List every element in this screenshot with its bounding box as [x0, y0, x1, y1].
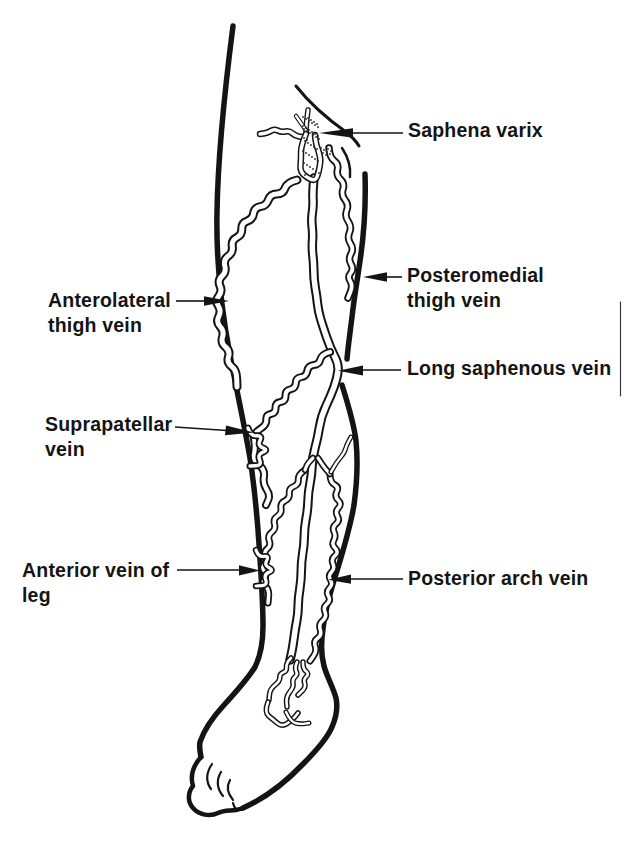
stipple-dot [310, 144, 312, 146]
label-anterolateral-thigh-vein: Anterolateral thigh vein [48, 288, 171, 338]
stipple-dot [311, 156, 313, 158]
label-text: Saphena varix [408, 118, 543, 143]
label-text: leg [22, 583, 169, 608]
stipple-dot [315, 136, 317, 138]
stipple-dot [306, 130, 308, 132]
vein-network [217, 110, 353, 725]
stipple-dot [310, 119, 312, 121]
stipple-dot [311, 131, 313, 133]
label-text: Anterolateral [48, 288, 171, 313]
stipple-dot [304, 174, 306, 176]
stipple-dot [315, 170, 317, 172]
stipple-dot [306, 139, 308, 141]
label-saphena-varix: Saphena varix [408, 118, 543, 143]
stipple-dot [322, 152, 324, 154]
label-text: thigh vein [407, 288, 544, 313]
stipple-dot [303, 162, 305, 164]
stipple-dot [312, 134, 314, 136]
stipple-dot [326, 151, 328, 153]
stipple-dot [327, 148, 329, 150]
stipple-dot [307, 142, 309, 144]
stipple-dot [306, 164, 308, 166]
label-suprapatellar-vein: Suprapatellar vein [45, 412, 172, 462]
stipple-dot [308, 154, 310, 156]
stipple-dot [303, 128, 305, 130]
toe-crease-3 [228, 780, 233, 800]
stipple-dot [312, 168, 314, 170]
stipple-dot [314, 124, 316, 126]
groin-crease-tail [342, 148, 350, 177]
leader-line [175, 427, 227, 431]
stipple-dot [308, 120, 310, 122]
stipple-dot [318, 138, 320, 140]
arrowhead-icon [319, 128, 353, 138]
leader-posteromedial-thigh-vein [363, 272, 402, 281]
stipple-dot [318, 172, 320, 174]
label-text: Suprapatellar [45, 412, 172, 437]
label-long-saphenous-vein: Long saphenous vein [407, 356, 611, 381]
stipple-dot [316, 123, 318, 125]
stipple-dot [305, 118, 307, 120]
anatomical-figure: Saphena varix Anterolateral thigh vein P… [0, 0, 624, 841]
label-text: Posteromedial [407, 263, 544, 288]
stipple-dot [317, 126, 319, 128]
label-posteromedial-thigh-vein: Posteromedial thigh vein [407, 263, 544, 313]
stipple-dot [305, 127, 307, 129]
stipple-dot [329, 153, 331, 155]
stipple-dot [313, 146, 315, 148]
stipple-dot [320, 147, 322, 149]
stipple-dot [308, 129, 310, 131]
label-posterior-arch-vein: Posterior arch vein [408, 566, 588, 591]
stipple-dot [309, 166, 311, 168]
label-text: thigh vein [48, 313, 171, 338]
stipple-dot [307, 117, 309, 119]
arrowhead-icon [363, 272, 387, 281]
stipple-dot [302, 125, 304, 127]
stipple-dot [314, 133, 316, 135]
label-text: Posterior arch vein [408, 566, 588, 591]
label-text: Long saphenous vein [407, 356, 611, 381]
stipple-dot [302, 116, 304, 118]
stipple-dot [323, 149, 325, 151]
stipple-dot [305, 152, 307, 154]
stipple-dot [330, 150, 332, 152]
anterolateral-thigh-vein-vessel [217, 180, 297, 387]
toe-crease-2 [218, 772, 223, 796]
outline-left-and-dorsum [200, 26, 263, 757]
stipple-dot [316, 148, 318, 150]
stipple-dot [303, 137, 305, 139]
leg-outline [189, 26, 621, 815]
stipple-dot [317, 135, 319, 137]
stipple-dot [304, 140, 306, 142]
label-anterior-vein-of-leg: Anterior vein of leg [22, 558, 169, 608]
leader-saphena-varix [319, 128, 403, 138]
stipple-dot [314, 158, 316, 160]
stipple-dot [325, 154, 327, 156]
stipple-dot [309, 132, 311, 134]
toe-crease-1 [207, 764, 212, 789]
stipple-dot [317, 160, 319, 162]
arrowhead-icon [239, 565, 260, 575]
stipple-dot [302, 150, 304, 152]
leader-anterior-vein-of-leg [177, 565, 260, 575]
label-text: Anterior vein of [22, 558, 169, 583]
label-text: vein [45, 437, 172, 462]
leader-posterior-arch-vein [328, 574, 403, 583]
leader-long-saphenous-vein [338, 366, 401, 376]
stipple-dot [311, 122, 313, 124]
leader-arrows [175, 128, 403, 584]
stipple-dot [313, 121, 315, 123]
